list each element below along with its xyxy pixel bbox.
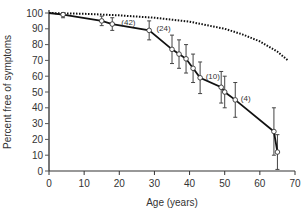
x-tick-label: 0 bbox=[46, 178, 52, 189]
data-point-marker bbox=[170, 47, 175, 52]
sample-size-label: (24) bbox=[156, 24, 171, 33]
data-point-marker bbox=[198, 75, 203, 80]
data-point-marker bbox=[99, 19, 104, 24]
y-tick-label: 90 bbox=[32, 23, 44, 34]
x-tick-label: 10 bbox=[79, 178, 91, 189]
expected-curve bbox=[49, 13, 288, 60]
data-points bbox=[61, 12, 280, 154]
x-tick-label: 30 bbox=[149, 178, 161, 189]
error-bars bbox=[61, 13, 279, 169]
expected-curve-line bbox=[49, 13, 288, 60]
y-tick-label: 10 bbox=[32, 150, 44, 161]
x-tick-label: 40 bbox=[184, 178, 196, 189]
y-tick-label: 40 bbox=[32, 102, 44, 113]
data-point-marker bbox=[222, 90, 227, 95]
y-tick-label: 50 bbox=[32, 87, 44, 98]
data-point-marker bbox=[147, 28, 152, 33]
sample-size-label: (4) bbox=[241, 94, 251, 103]
y-tick-label: 20 bbox=[32, 134, 44, 145]
data-point-marker bbox=[191, 66, 196, 71]
survival-chart: 0102030405060708090100010203040506070 (4… bbox=[0, 0, 307, 214]
data-point-marker bbox=[61, 12, 66, 17]
y-tick-label: 30 bbox=[32, 118, 44, 129]
x-tick-label: 60 bbox=[254, 178, 266, 189]
data-point-marker bbox=[275, 150, 280, 155]
sample-size-label: (42) bbox=[121, 18, 136, 27]
y-tick-label: 0 bbox=[37, 166, 43, 177]
data-point-marker bbox=[184, 57, 189, 62]
y-tick-label: 100 bbox=[26, 8, 43, 19]
y-tick-label: 60 bbox=[32, 71, 44, 82]
x-tick-label: 50 bbox=[219, 178, 231, 189]
y-tick-label: 70 bbox=[32, 55, 44, 66]
x-axis-label: Age (years) bbox=[146, 197, 198, 208]
sample-size-label: (10) bbox=[206, 72, 221, 81]
data-point-marker bbox=[233, 98, 238, 103]
data-point-marker bbox=[177, 52, 182, 57]
x-tick-label: 70 bbox=[289, 178, 301, 189]
data-point-marker bbox=[219, 85, 224, 90]
y-tick-label: 80 bbox=[32, 39, 44, 50]
axes: 0102030405060708090100010203040506070 bbox=[26, 8, 301, 190]
data-point-marker bbox=[110, 22, 115, 27]
x-tick-label: 20 bbox=[114, 178, 126, 189]
y-axis-label: Percent free of symptoms bbox=[2, 35, 13, 149]
data-point-marker bbox=[272, 129, 277, 134]
